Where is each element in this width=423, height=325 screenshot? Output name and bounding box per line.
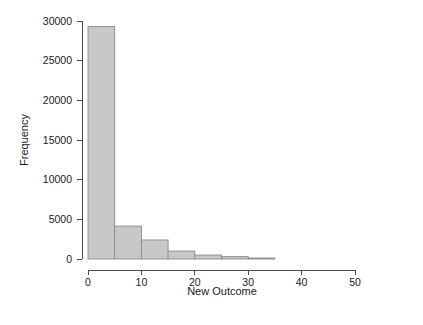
- x-tick-label: 50: [349, 276, 361, 288]
- y-tick-label: 5000: [49, 213, 73, 225]
- histogram-bar: [88, 27, 115, 259]
- bar-series: [88, 27, 275, 259]
- plot-area: 050001000015000200002500030000 010203040…: [0, 0, 423, 325]
- y-tick-label: 25000: [43, 54, 72, 66]
- histogram-bar: [168, 251, 195, 259]
- y-axis-title: Frequency: [18, 114, 30, 166]
- histogram-bar: [222, 257, 249, 259]
- x-axis-title: New Outcome: [187, 285, 257, 297]
- x-tick-label: 10: [136, 276, 148, 288]
- y-tick-label: 20000: [43, 94, 72, 106]
- histogram-bar: [115, 226, 142, 259]
- y-axis: [77, 21, 82, 259]
- histogram-chart: 050001000015000200002500030000 010203040…: [0, 0, 423, 325]
- y-tick-label: 0: [66, 253, 72, 265]
- histogram-bar: [195, 255, 222, 259]
- histogram-bar: [141, 240, 168, 259]
- y-tick-labels: 050001000015000200002500030000: [43, 15, 72, 265]
- histogram-bar: [248, 258, 275, 259]
- x-axis: [88, 270, 355, 275]
- y-tick-label: 30000: [43, 15, 72, 27]
- x-axis-ticks: [88, 270, 355, 275]
- x-tick-label: 40: [296, 276, 308, 288]
- y-tick-label: 10000: [43, 173, 72, 185]
- y-axis-ticks: [77, 21, 82, 259]
- y-tick-label: 15000: [43, 134, 72, 146]
- x-tick-label: 0: [85, 276, 91, 288]
